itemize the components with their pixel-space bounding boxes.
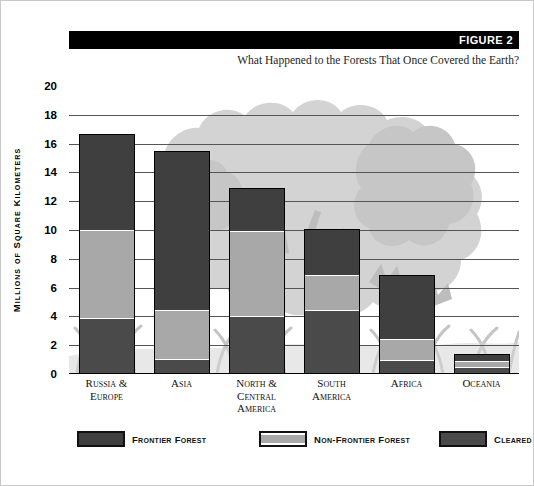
bar-oceania xyxy=(454,354,510,374)
x-axis-label: Russia &Europe xyxy=(69,377,144,402)
legend-label: Frontier Forest xyxy=(132,434,206,445)
gridline xyxy=(69,201,519,202)
bar-north-central-america xyxy=(229,188,285,374)
gridline xyxy=(69,172,519,173)
chart-legend: Frontier ForestNon-Frontier ForestCleare… xyxy=(69,431,519,457)
x-axis-label-line: Central America xyxy=(219,390,294,415)
gridline xyxy=(69,345,519,346)
gridline xyxy=(69,115,519,116)
bar-segment-frontier-forest xyxy=(80,135,134,231)
bar-segment-cleared xyxy=(305,311,359,373)
legend-label: Cleared xyxy=(494,434,532,445)
x-axis-label-line: South xyxy=(294,377,369,390)
y-axis-tick-label: 0 xyxy=(51,368,57,380)
x-axis-label: Oceania xyxy=(444,377,519,390)
x-axis-label: Africa xyxy=(369,377,444,390)
bar-segment-non-frontier-forest xyxy=(305,275,359,311)
gridline xyxy=(69,316,519,317)
bar-segment-cleared xyxy=(380,361,434,373)
legend-swatch xyxy=(439,431,487,447)
figure-container: FIGURE 2 What Happened to the Forests Th… xyxy=(0,0,534,486)
y-axis-tick-label: 12 xyxy=(44,195,57,207)
x-axis-label: North &Central America xyxy=(219,377,294,415)
y-axis-tick-label: 2 xyxy=(51,339,57,351)
y-axis-tick-label: 18 xyxy=(44,109,57,121)
x-axis-label: SouthAmerica xyxy=(294,377,369,402)
x-axis-line xyxy=(69,373,519,375)
bar-segment-frontier-forest xyxy=(230,189,284,230)
y-axis-tick-label: 16 xyxy=(44,138,57,150)
figure-banner: FIGURE 2 xyxy=(69,31,519,49)
legend-label: Non-Frontier Forest xyxy=(314,434,410,445)
bar-asia xyxy=(154,151,210,374)
bar-segment-frontier-forest xyxy=(380,276,434,339)
bar-segment-non-frontier-forest xyxy=(380,339,434,361)
y-axis-tick-label: 8 xyxy=(51,253,57,265)
bar-russia-europe xyxy=(79,134,135,374)
x-axis-label-line: Oceania xyxy=(444,377,519,390)
bar-segment-cleared xyxy=(80,319,134,373)
x-axis-label-line: Russia & xyxy=(69,377,144,390)
legend-item-non-frontier-forest[interactable]: Non-Frontier Forest xyxy=(259,431,410,447)
y-axis-tick-label: 10 xyxy=(44,224,57,236)
x-axis-label-line: North & xyxy=(219,377,294,390)
bar-segment-frontier-forest xyxy=(305,230,359,275)
gridline xyxy=(69,259,519,260)
bar-segment-cleared xyxy=(155,360,209,373)
gridline xyxy=(69,230,519,231)
bar-segment-frontier-forest xyxy=(155,152,209,310)
y-axis-tick-label: 20 xyxy=(44,80,57,92)
plot-area xyxy=(69,86,519,374)
bar-segment-non-frontier-forest xyxy=(230,231,284,318)
bar-africa xyxy=(379,275,435,374)
figure-subtitle: What Happened to the Forests That Once C… xyxy=(69,54,519,66)
bar-south-america xyxy=(304,229,360,374)
x-axis-label-line: Asia xyxy=(144,377,219,390)
gridline xyxy=(69,144,519,145)
bar-segment-non-frontier-forest xyxy=(155,310,209,360)
y-axis-tick-label: 6 xyxy=(51,282,57,294)
x-axis-label-line: Europe xyxy=(69,390,144,403)
figure-number-label: FIGURE 2 xyxy=(459,35,513,46)
x-axis-labels: Russia &EuropeAsiaNorth &Central America… xyxy=(69,377,519,413)
x-axis-label-line: America xyxy=(294,390,369,403)
x-axis-label-line: Africa xyxy=(369,377,444,390)
gridline xyxy=(69,288,519,289)
y-axis-tick-label: 14 xyxy=(44,166,57,178)
y-axis-tick-label: 4 xyxy=(51,310,57,322)
legend-item-cleared[interactable]: Cleared xyxy=(439,431,532,447)
x-axis-label: Asia xyxy=(144,377,219,390)
bar-segment-cleared xyxy=(230,317,284,373)
y-axis-ticks: 02468101214161820 xyxy=(1,86,65,374)
legend-swatch xyxy=(77,431,125,447)
bar-segment-non-frontier-forest xyxy=(80,230,134,319)
legend-swatch xyxy=(259,431,307,447)
legend-item-frontier-forest[interactable]: Frontier Forest xyxy=(77,431,206,447)
